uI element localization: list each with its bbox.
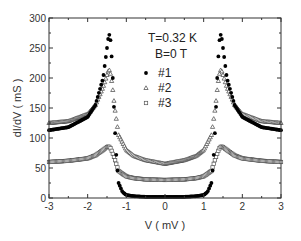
legend-item: #1 [144,66,172,80]
data-point-circle [112,105,116,109]
data-point-square [115,162,118,165]
data-point-circle [230,95,234,99]
data-point-triangle [115,125,119,129]
data-point-square [212,162,215,165]
x-tick-label: 2 [240,201,246,212]
y-tick-label: 150 [29,103,46,114]
data-point-circle [102,73,106,77]
data-point-circle [110,55,114,59]
chart: -3-2-10123050100150200250300 T=0.32 K B=… [0,0,301,241]
legend-label: #2 [158,81,172,95]
data-point-triangle [222,76,226,80]
y-tick-label: 250 [29,43,46,54]
data-point-triangle [144,86,148,90]
data-point-circle [103,64,107,68]
data-point-triangle [210,125,214,129]
legend-label: #1 [158,66,172,80]
data-point-circle [212,153,216,157]
y-tick-label: 50 [35,163,47,174]
data-point-circle [213,131,217,135]
data-point-circle [228,87,232,91]
data-point-circle [100,79,104,83]
data-point-circle [220,37,224,41]
data-point-triangle [113,109,117,113]
data-point-triangle [213,109,217,113]
data-point-circle [229,91,233,95]
data-point-circle [225,73,229,77]
x-tick-label: 0 [162,201,168,212]
annotation-field: B=0 T [155,47,188,61]
legend-label: #3 [158,96,172,110]
data-point-circle [94,103,98,107]
data-point-triangle [212,117,216,121]
x-tick-label: 3 [278,201,284,212]
data-point-circle [221,46,225,50]
legend-item: #2 [144,81,172,95]
data-point-circle [214,105,218,109]
y-tick-label: 300 [29,13,46,24]
legend: #1#2#3 [144,66,172,110]
data-point-circle [95,99,99,103]
data-point-triangle [214,99,218,103]
x-tick-label: 1 [201,201,207,212]
data-point-circle [114,153,118,157]
data-point-circle [107,33,111,37]
data-point-circle [109,38,113,42]
data-point-circle [99,83,103,87]
y-tick-label: 100 [29,133,46,144]
x-tick-label: -2 [83,201,92,212]
data-point-circle [227,83,231,87]
data-point-circle [105,46,109,50]
data-point-circle [98,87,102,91]
data-point-triangle [104,76,108,80]
annotation-temperature: T=0.32 K [148,31,197,45]
data-point-circle [210,181,214,185]
data-point-triangle [111,88,115,92]
data-point-triangle [114,117,118,121]
data-point-circle [223,64,227,68]
data-point-triangle [215,88,219,92]
data-point-circle [219,33,223,37]
y-axis-label: dI/dV ( mS ) [11,79,23,138]
data-point-circle [222,55,226,59]
data-point-circle [116,169,120,173]
data-point-circle [216,55,220,59]
data-point-circle [96,95,100,99]
data-point-circle [226,79,230,83]
x-axis-label: V ( mV ) [145,219,185,231]
data-point-circle [113,131,117,135]
data-point-triangle [209,133,213,137]
data-point-circle [111,76,115,80]
y-tick-label: 0 [40,193,46,204]
data-point-square [213,159,216,162]
data-point-circle [144,71,148,75]
data-point-circle [97,91,101,95]
data-point-circle [232,99,236,103]
data-point-circle [211,169,215,173]
data-point-square [113,159,116,162]
data-point-triangle [112,99,116,103]
data-point-circle [104,55,108,59]
legend-item: #3 [144,96,171,110]
data-point-square [144,101,147,104]
y-tick-label: 200 [29,73,46,84]
data-point-circle [215,76,219,80]
x-tick-label: -1 [122,201,131,212]
